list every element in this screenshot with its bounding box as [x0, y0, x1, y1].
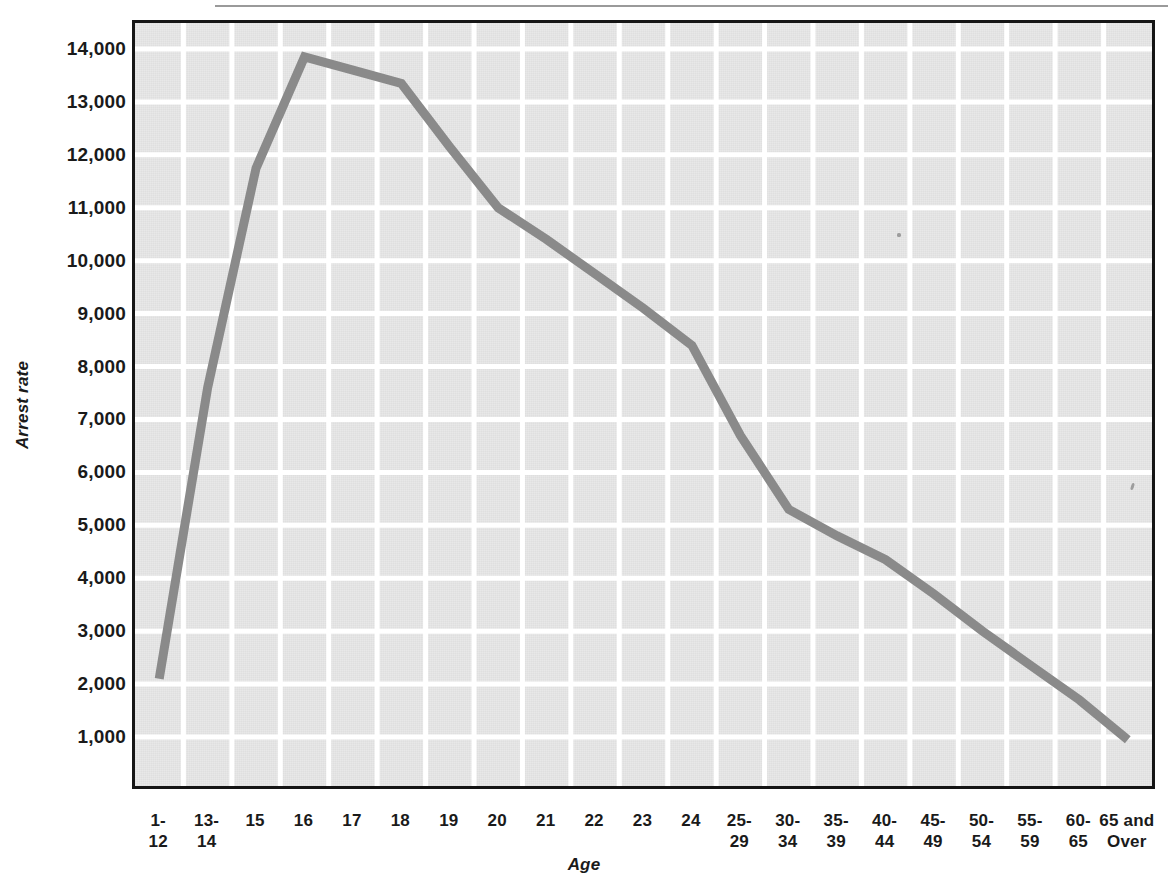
- x-axis-tick-label: 45- 49: [920, 810, 945, 852]
- x-axis-tick-label: 65 and Over: [1082, 810, 1168, 852]
- y-axis-tick-label: 10,000: [6, 250, 126, 272]
- x-axis-tick-label: 19: [439, 810, 458, 831]
- x-axis-tick-label: 35- 39: [824, 810, 849, 852]
- arrest-rate-line-series: [135, 23, 1152, 786]
- x-axis-tick-label: 40- 44: [872, 810, 897, 852]
- x-axis-tick-label: 55- 59: [1017, 810, 1042, 852]
- x-axis-tick-label: 22: [584, 810, 603, 831]
- x-axis-tick-label: 16: [294, 810, 313, 831]
- y-axis-tick-label: 1,000: [6, 726, 126, 748]
- y-axis-tick-label: 6,000: [6, 461, 126, 483]
- y-axis-tick-label: 12,000: [6, 144, 126, 166]
- x-axis-title: Age: [0, 855, 1168, 875]
- y-axis-tick-label: 13,000: [6, 91, 126, 113]
- scan-speck: [897, 233, 901, 237]
- y-axis-tick-label: 14,000: [6, 38, 126, 60]
- y-axis-tick-label: 4,000: [6, 567, 126, 589]
- x-axis-tick-label: 15: [245, 810, 264, 831]
- y-axis-tick-label: 5,000: [6, 514, 126, 536]
- y-axis-tick-label: 9,000: [6, 303, 126, 325]
- y-axis-tick-labels: 14,00013,00012,00011,00010,0009,0008,000…: [0, 0, 126, 883]
- x-axis-tick-label: 17: [342, 810, 361, 831]
- x-axis-tick-label: 30- 34: [775, 810, 800, 852]
- x-axis-tick-label: 50- 54: [969, 810, 994, 852]
- x-axis-tick-label: 25- 29: [727, 810, 752, 852]
- y-axis-tick-label: 2,000: [6, 673, 126, 695]
- x-axis-tick-label: 18: [391, 810, 410, 831]
- x-axis-tick-label: 24: [681, 810, 700, 831]
- x-axis-tick-label: 21: [536, 810, 555, 831]
- y-axis-tick-label: 3,000: [6, 620, 126, 642]
- plot-area: [132, 20, 1155, 789]
- top-divider-rule: [215, 5, 1168, 7]
- y-axis-tick-label: 11,000: [6, 197, 126, 219]
- x-axis-tick-label: 23: [633, 810, 652, 831]
- x-axis-tick-label: 20: [488, 810, 507, 831]
- x-axis-tick-label: 1- 12: [149, 810, 168, 852]
- y-axis-tick-label: 8,000: [6, 356, 126, 378]
- y-axis-tick-label: 7,000: [6, 408, 126, 430]
- x-axis-tick-label: 13- 14: [194, 810, 219, 852]
